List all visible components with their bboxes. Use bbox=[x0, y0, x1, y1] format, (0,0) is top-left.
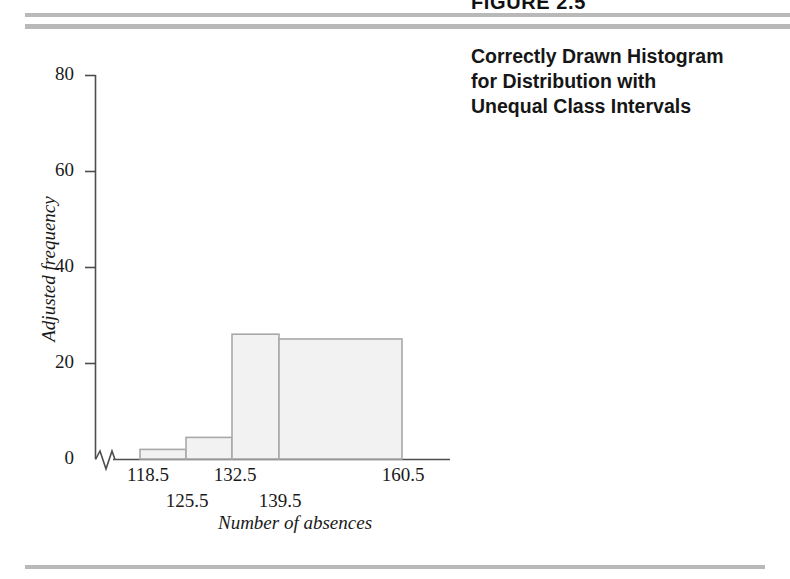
x-tick-label: 132.5 bbox=[200, 464, 270, 486]
histogram-bar bbox=[186, 437, 232, 459]
x-tick-label: 125.5 bbox=[152, 490, 222, 512]
x-axis-title: Number of absences bbox=[150, 512, 440, 534]
y-tick-label: 0 bbox=[28, 447, 74, 469]
histogram-bar bbox=[140, 449, 186, 459]
histogram-chart: 80 60 40 20 0 118.5 125.5 132.5 139.5 16… bbox=[0, 0, 520, 540]
x-tick-label: 139.5 bbox=[245, 490, 315, 512]
divider-bottom bbox=[25, 565, 765, 569]
x-tick-label: 160.5 bbox=[368, 464, 438, 486]
histogram-bar bbox=[232, 334, 279, 459]
y-tick-label: 80 bbox=[28, 63, 74, 85]
x-tick-label: 118.5 bbox=[113, 464, 183, 486]
chart-canvas bbox=[0, 0, 520, 540]
histogram-bar bbox=[279, 339, 402, 459]
y-axis-title: Adjusted frequency bbox=[38, 174, 60, 364]
